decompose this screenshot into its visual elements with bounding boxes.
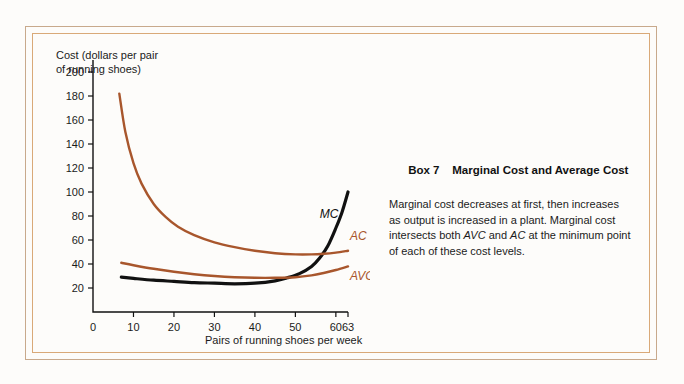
panel-body: Marginal cost decreases at first, then i… [389, 197, 633, 259]
x-tick-label: 10 [127, 321, 139, 333]
y-tick-label: 60 [72, 234, 84, 246]
cost-curves-chart: 2040608010012014016018020001020304050606… [30, 38, 370, 338]
figure-root: Cost (dollars per pair of running shoes)… [0, 0, 684, 384]
y-tick-label: 140 [66, 138, 84, 150]
x-tick-label: 40 [249, 321, 261, 333]
explanation-panel: Box 7 Marginal Cost and Average Cost Mar… [389, 152, 633, 259]
panel-body-avc: AVC [464, 229, 486, 241]
curve-label-ac: AC [349, 229, 367, 243]
y-tick-label: 20 [72, 282, 84, 294]
x-tick-label: 0 [90, 321, 96, 333]
y-tick-label: 100 [66, 186, 84, 198]
chart-plot-area: 2040608010012014016018020001020304050606… [30, 38, 370, 338]
y-tick-label: 40 [72, 258, 84, 270]
curve-label-mc: MC [320, 207, 339, 221]
panel-title-text: Marginal Cost and Average Cost [452, 164, 628, 176]
x-tick-label: 63 [342, 321, 354, 333]
x-tick-label: 60 [330, 321, 342, 333]
curve-label-avc: AVC [349, 269, 370, 283]
y-tick-label: 120 [66, 162, 84, 174]
panel-body-part2: and [486, 229, 510, 241]
x-tick-label: 30 [208, 321, 220, 333]
y-tick-label: 200 [66, 66, 84, 78]
panel-title: Box 7 Marginal Cost and Average Cost [389, 152, 633, 188]
y-tick-label: 80 [72, 210, 84, 222]
panel-body-ac: AC [510, 229, 525, 241]
curve-ac [119, 94, 348, 255]
x-tick-label: 20 [168, 321, 180, 333]
y-tick-label: 180 [66, 90, 84, 102]
panel-box-number: Box 7 [408, 164, 439, 176]
x-tick-label: 50 [289, 321, 301, 333]
y-tick-label: 160 [66, 114, 84, 126]
